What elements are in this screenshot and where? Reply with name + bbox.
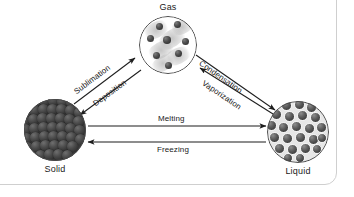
figure-canvas: Gas — [0, 0, 354, 197]
label-melting: Melting — [158, 114, 185, 123]
node-gas[interactable] — [139, 16, 197, 74]
gas-circle-outline — [139, 16, 197, 74]
node-label-liquid: Liquid — [267, 166, 329, 176]
phase-diagram: Gas — [0, 0, 354, 197]
node-label-solid: Solid — [24, 164, 86, 174]
node-label-gas: Gas — [139, 2, 197, 12]
label-freezing: Freezing — [157, 145, 189, 154]
node-liquid[interactable] — [267, 101, 329, 163]
liquid-circle-outline — [267, 101, 329, 163]
node-solid[interactable] — [24, 99, 86, 161]
solid-circle-outline — [24, 99, 86, 161]
